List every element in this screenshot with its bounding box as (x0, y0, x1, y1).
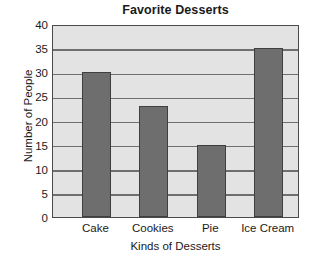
y-axis-tick-labels: 0510152025303540 (0, 25, 48, 218)
x-axis-title: Kinds of Desserts (52, 240, 299, 252)
x-axis-tick-labels: CakeCookiesPieIce Cream (52, 221, 299, 237)
y-axis-tick-label: 40 (4, 19, 48, 31)
bar-chart-figure: Favorite Desserts Number of People 05101… (0, 0, 317, 267)
y-axis-tick-label: 20 (4, 116, 48, 128)
y-axis-tick-label: 5 (4, 188, 48, 200)
x-axis-tick-label: Ice Cream (218, 221, 317, 235)
y-axis-tick-label: 25 (4, 91, 48, 103)
plot-area (52, 25, 299, 218)
bar (197, 145, 226, 217)
y-axis-tick-label: 10 (4, 164, 48, 176)
bar (139, 106, 168, 217)
bar (254, 48, 283, 217)
y-axis-tick-label: 0 (4, 212, 48, 224)
bar (82, 72, 111, 217)
y-axis-tick-label: 35 (4, 43, 48, 55)
y-axis-tick-label: 30 (4, 67, 48, 79)
chart-title: Favorite Desserts (52, 3, 299, 17)
y-axis-tick-label: 15 (4, 140, 48, 152)
